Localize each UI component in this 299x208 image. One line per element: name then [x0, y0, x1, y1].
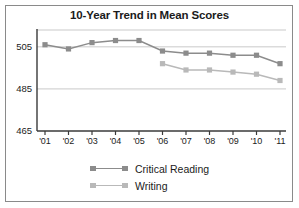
legend-swatch-icon — [90, 164, 128, 174]
x-axis-tick-label: '06 — [152, 136, 174, 146]
x-axis-tick-label: '10 — [246, 136, 268, 146]
y-axis-tick-label: 505 — [2, 41, 32, 52]
x-axis-tick-label: '04 — [105, 136, 127, 146]
legend-label: Critical Reading — [135, 163, 209, 175]
legend-item-1: Writing — [90, 177, 209, 194]
y-axis-tick-label: 485 — [2, 83, 32, 94]
chart-legend: Critical ReadingWriting — [90, 160, 209, 194]
x-axis-tick-label: '03 — [81, 136, 103, 146]
legend-label: Writing — [135, 180, 167, 192]
legend-item-0: Critical Reading — [90, 160, 209, 177]
x-axis-tick-label: '08 — [199, 136, 221, 146]
legend-swatch-icon — [90, 181, 128, 191]
x-axis-tick-label: '05 — [128, 136, 150, 146]
x-axis-tick-label: '11 — [269, 136, 291, 146]
x-axis-tick-label: '02 — [58, 136, 80, 146]
y-axis-tick-label: 465 — [2, 125, 32, 136]
x-axis-tick-label: '09 — [222, 136, 244, 146]
x-axis-tick-label: '07 — [175, 136, 197, 146]
x-axis-tick-label: '01 — [34, 136, 56, 146]
chart-figure: 10-Year Trend in Mean Scores 465485505 '… — [0, 0, 299, 208]
chart-title: 10-Year Trend in Mean Scores — [0, 9, 299, 21]
